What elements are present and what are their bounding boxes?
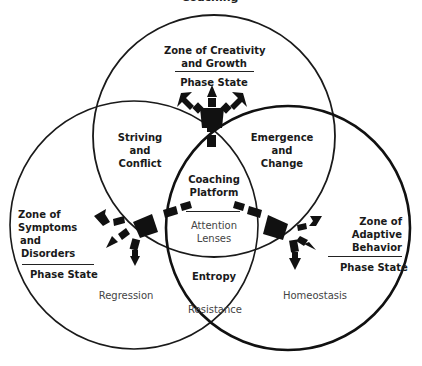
zone-right-title: Zone of Adaptive Behavior [350, 215, 402, 254]
zone-top-divider [175, 71, 254, 72]
zone-right-state: Phase State [340, 261, 402, 274]
zone-left-title: Zone of Symptoms and Disorders [18, 208, 77, 260]
zone-top-state: Phase State [164, 76, 264, 89]
cut-off-title: Coaching [150, 0, 270, 3]
zone-left-state: Phase State [30, 268, 98, 281]
overlap-entropy: Entropy [181, 270, 247, 283]
overlap-striving-conflict: Striving and Conflict [110, 131, 170, 170]
center-attention-lenses: Attention Lenses [181, 219, 247, 245]
zone-right-divider [328, 256, 402, 257]
center-coaching-platform: Coaching Platform [181, 173, 247, 199]
zone-left-divider [22, 264, 94, 265]
outcome-homeostasis: Homeostasis [280, 289, 350, 302]
outcome-resistance: Resistance [180, 303, 250, 316]
outcome-regression: Regression [96, 289, 156, 302]
overlap-emergence-change: Emergence and Change [247, 131, 317, 170]
zone-top-title: Zone of Creativity and Growth [164, 44, 264, 70]
center-divider [186, 211, 240, 212]
arrows-left-icon [94, 201, 192, 266]
